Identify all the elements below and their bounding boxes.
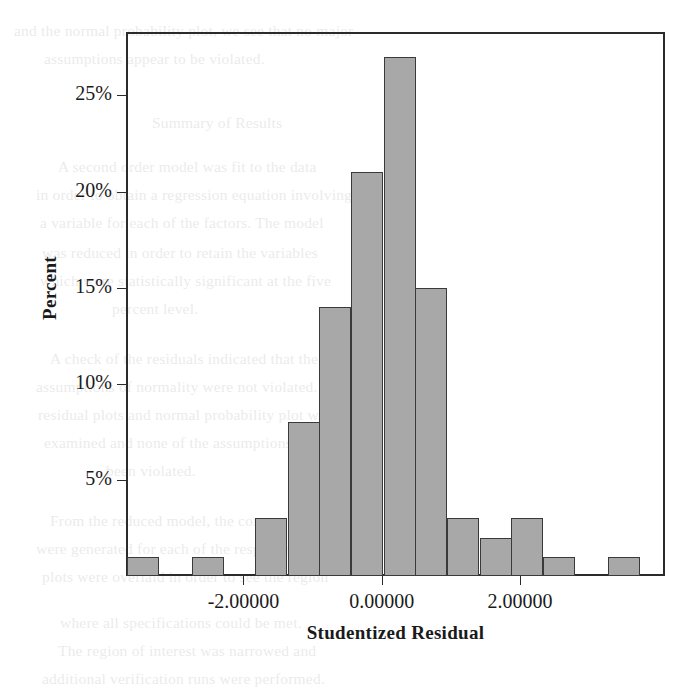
x-axis-tick-label: 2.00000: [440, 590, 600, 613]
y-axis-tick: [117, 95, 126, 96]
histogram-bar: [351, 172, 383, 576]
x-axis-tick-label: 0.00000: [302, 590, 462, 613]
y-axis-tick-label-wrap: 10%: [40, 371, 112, 395]
histogram-bar: [480, 538, 512, 576]
histogram-bar: [319, 307, 351, 576]
histogram-chart: 5%10%15%20%25% -2.000000.000002.00000 Pe…: [0, 0, 696, 688]
y-axis-tick-label: 5%: [85, 467, 112, 490]
histogram-bar: [384, 57, 416, 576]
x-axis-tick: [243, 576, 244, 585]
y-axis-tick-label-wrap: 25%: [40, 82, 112, 106]
y-axis-tick: [117, 288, 126, 289]
y-axis-title: Percent: [39, 218, 61, 358]
y-axis-tick: [117, 192, 126, 193]
y-axis-tick-label-wrap: 5%: [40, 467, 112, 491]
histogram-bar: [255, 518, 287, 576]
x-axis-title: Studentized Residual: [126, 622, 665, 644]
histogram-bar: [447, 518, 479, 576]
y-axis-tick-label: 15%: [75, 275, 112, 298]
x-axis-tick: [382, 576, 383, 585]
y-axis-tick: [117, 480, 126, 481]
bars-layer: [126, 32, 665, 576]
y-axis-tick-label-wrap: 20%: [40, 179, 112, 203]
histogram-bar: [127, 557, 159, 576]
histogram-bar: [608, 557, 640, 576]
y-axis-tick-label: 10%: [75, 371, 112, 394]
histogram-bar: [288, 422, 320, 576]
histogram-bar: [415, 288, 447, 576]
histogram-bar: [192, 557, 224, 576]
x-axis-tick-label: -2.00000: [163, 590, 323, 613]
x-axis-tick: [520, 576, 521, 585]
histogram-bar: [543, 557, 575, 576]
histogram-bar: [511, 518, 543, 576]
y-axis-tick-label: 20%: [75, 179, 112, 202]
y-axis-tick-label: 25%: [75, 82, 112, 105]
y-axis-tick: [117, 384, 126, 385]
